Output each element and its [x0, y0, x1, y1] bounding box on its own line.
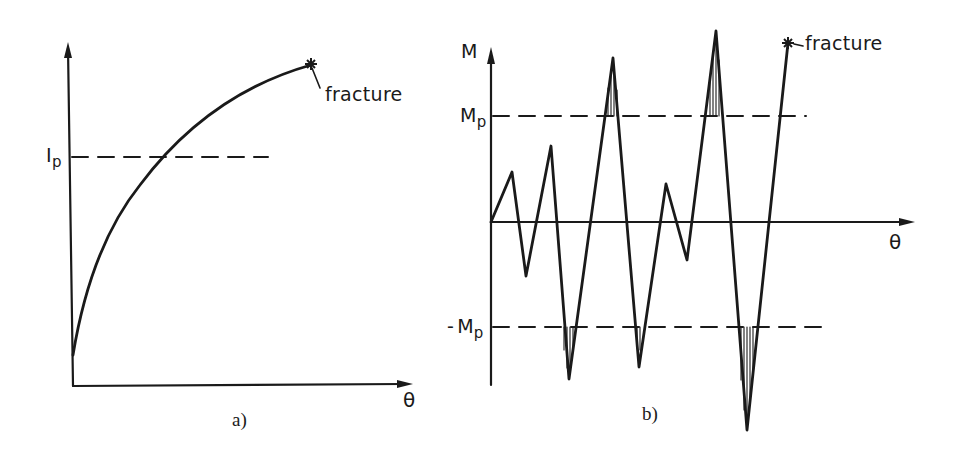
panel-a-fracture-star-icon [305, 58, 317, 70]
panel-b-load-path [491, 31, 788, 430]
panel-b-fracture-leader [794, 44, 803, 46]
panel-b-x-arrow-icon [899, 218, 915, 226]
panel-a-x-axis [73, 384, 404, 386]
panel-a-curve [73, 65, 311, 355]
figure-canvas [0, 0, 956, 451]
panel-b-neg-mp-main: M [457, 315, 474, 337]
panel-b-fracture-label: fracture [805, 34, 883, 53]
panel-a-y-axis [68, 48, 73, 386]
panel-b-neg-mp-prefix: - [447, 315, 454, 337]
panel-a-theta-label: θ [403, 390, 415, 410]
panel-a-ip-label-sub: p [52, 153, 62, 171]
panel-b-theta-label: θ [889, 232, 901, 252]
panel-a-fracture-label: fracture [325, 85, 403, 104]
panel-a-ip-label: Ip [46, 146, 62, 165]
panel-b-mp-label: Mp [460, 106, 487, 125]
panel-a-y-arrow-icon [64, 42, 72, 58]
panel-a-caption: a) [232, 410, 247, 429]
panel-b-mp-label-main: M [460, 104, 477, 126]
panel-b-fracture-star-icon [782, 37, 794, 49]
panel-b-mp-label-sub: p [477, 113, 487, 131]
panel-a-x-arrow-icon [397, 380, 413, 388]
panel-b-neg-mp-sub: p [474, 324, 484, 342]
panel-b-neg-mp-label: -Mp [447, 317, 484, 336]
panel-b [487, 31, 915, 430]
panel-b-y-arrow-icon [487, 47, 495, 64]
panel-a-fracture-leader [312, 68, 320, 88]
panel-b-m-label: M [461, 42, 478, 61]
panel-b-caption: b) [642, 404, 658, 423]
